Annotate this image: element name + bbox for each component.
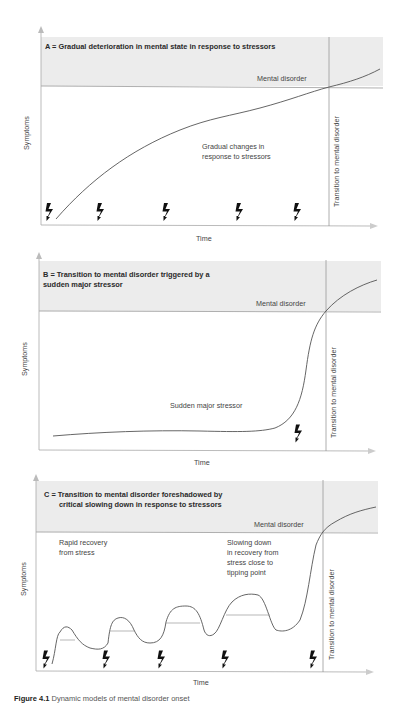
stressor-bolt-icon: [97, 203, 105, 221]
y-axis-label: Symptoms: [20, 342, 29, 376]
annotation-slowing-down: tipping point: [227, 568, 266, 577]
threshold-line: [39, 311, 381, 312]
y-axis-arrow-icon: [38, 26, 44, 33]
x-axis-arrow-icon: [366, 669, 374, 675]
figure-caption: Figure 4.1 Dynamic models of mental diso…: [14, 694, 190, 703]
x-axis: [39, 450, 370, 451]
panel-b-title-line2: sudden major stressor: [43, 280, 123, 290]
threshold-line: [36, 532, 378, 533]
caption-label: Figure 4.1: [14, 694, 49, 703]
annotation-rapid-recovery: from stress: [59, 548, 95, 557]
stressor-bolt-icon: [103, 651, 111, 669]
x-axis: [41, 225, 372, 226]
annotation: Gradual changes in: [202, 142, 264, 151]
y-axis-label: Symptoms: [19, 562, 28, 596]
y-axis-arrow-icon: [36, 252, 42, 259]
stressor-bolt-icon: [46, 203, 54, 221]
annotation: Sudden major stressor: [170, 401, 242, 410]
caption-text: Dynamic models of mental disorder onset: [52, 694, 190, 703]
stressor-bolt-icon: [222, 651, 230, 669]
annotation: response to stressors: [202, 152, 271, 161]
panel-b-title: B = Transition to mental disorder trigge…: [43, 270, 210, 280]
x-axis-label: Time: [193, 678, 209, 687]
stressor-bolt-icon: [295, 425, 303, 443]
stressor-bolt-icon: [236, 203, 244, 221]
stressor-bolt-icon: [158, 651, 166, 669]
y-axis-label: Symptoms: [22, 116, 31, 150]
stressor-bolt-icon: [163, 203, 171, 221]
panel-c-title-line2: critical slowing down in response to str…: [59, 500, 222, 510]
x-axis-arrow-icon: [370, 223, 378, 229]
annotation-slowing-down: stress close to: [227, 558, 273, 567]
transition-label: Transition to mental disorder: [329, 347, 338, 438]
stressor-bolt-icon: [43, 651, 51, 669]
y-axis-arrow-icon: [33, 474, 39, 481]
x-axis: [36, 671, 368, 672]
x-axis-label: Time: [194, 458, 210, 467]
threshold-label: Mental disorder: [256, 299, 306, 308]
stressor-bolt-icon: [294, 203, 302, 221]
threshold-label: Mental disorder: [257, 74, 307, 83]
panel-a-title: A = Gradual deterioration in mental stat…: [45, 42, 275, 52]
x-axis-arrow-icon: [368, 448, 376, 454]
x-axis-label: Time: [196, 234, 212, 243]
panel-c-title: C = Transition to mental disorder foresh…: [44, 490, 222, 500]
annotation-slowing-down: in recovery from: [227, 548, 279, 557]
transition-label: Transition to mental disorder: [332, 116, 341, 207]
stressor-bolt-icon: [310, 651, 318, 669]
transition-label: Transition to mental disorder: [327, 569, 336, 660]
threshold-label: Mental disorder: [254, 520, 304, 529]
annotation-slowing-down: Slowing down: [227, 538, 271, 547]
annotation-rapid-recovery: Rapid recovery: [59, 538, 107, 547]
